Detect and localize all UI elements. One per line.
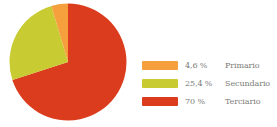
legend-item-primario[interactable]: 4,6 % Primario <box>142 56 275 74</box>
pie-slice-group <box>9 4 126 121</box>
legend-item-terciario[interactable]: 70 % Terciario <box>142 92 275 110</box>
pie-chart-graphic <box>9 3 127 121</box>
pie-chart-figure: 4,6 % Primario 25,4 % Secundario 70 % Te… <box>0 0 277 127</box>
legend-label-terciario: Terciario <box>225 97 260 106</box>
legend-swatch-terciario <box>142 97 178 106</box>
legend-swatch-primario <box>142 61 178 70</box>
legend-label-primario: Primario <box>225 61 260 70</box>
legend-value-terciario: 70 % <box>185 97 225 106</box>
legend-value-primario: 4,6 % <box>185 61 225 70</box>
chart-legend: 4,6 % Primario 25,4 % Secundario 70 % Te… <box>142 56 275 110</box>
legend-label-secundario: Secundario <box>225 79 270 88</box>
legend-value-secundario: 25,4 % <box>185 79 225 88</box>
legend-item-secundario[interactable]: 25,4 % Secundario <box>142 74 275 92</box>
legend-swatch-secundario <box>142 79 178 88</box>
pie-chart-svg <box>9 3 127 121</box>
